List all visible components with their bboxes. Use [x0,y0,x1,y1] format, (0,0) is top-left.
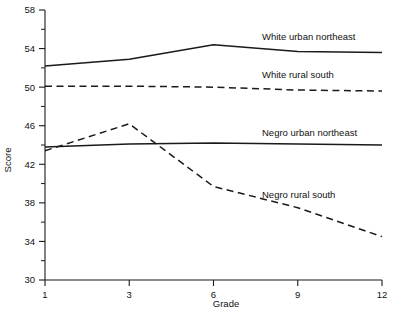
x-tick-label: 12 [377,289,388,300]
series-labels: White urban northeastWhite rural southNe… [262,31,357,200]
x-axis-title: Grade [213,298,239,309]
chart-container: 3034384246505458 136912 Score Grade Whit… [0,0,409,313]
x-axis: 136912 [42,280,387,300]
series-line-0 [45,45,382,66]
y-tick-label: 38 [24,197,35,208]
y-tick-label: 42 [24,159,35,170]
x-tick-label: 1 [42,289,47,300]
series-line-2 [45,143,382,147]
series-label-0: White urban northeast [262,31,356,42]
y-tick-label: 46 [24,120,35,131]
series-label-3: Negro rural south [262,189,335,200]
series-label-1: White rural south [262,69,334,80]
line-chart: 3034384246505458 136912 Score Grade Whit… [0,0,409,313]
x-tick-label: 3 [127,289,132,300]
series-line-3 [45,124,382,237]
y-axis-title: Score [2,148,13,173]
y-tick-label: 50 [24,82,35,93]
x-tick-label: 9 [295,289,300,300]
y-tick-label: 34 [24,236,35,247]
y-axis: 3034384246505458 [24,4,45,285]
y-tick-label: 58 [24,4,35,15]
y-tick-label: 30 [24,274,35,285]
series-line-1 [45,86,382,91]
series-label-2: Negro urban northeast [262,127,357,138]
y-tick-label: 54 [24,43,35,54]
